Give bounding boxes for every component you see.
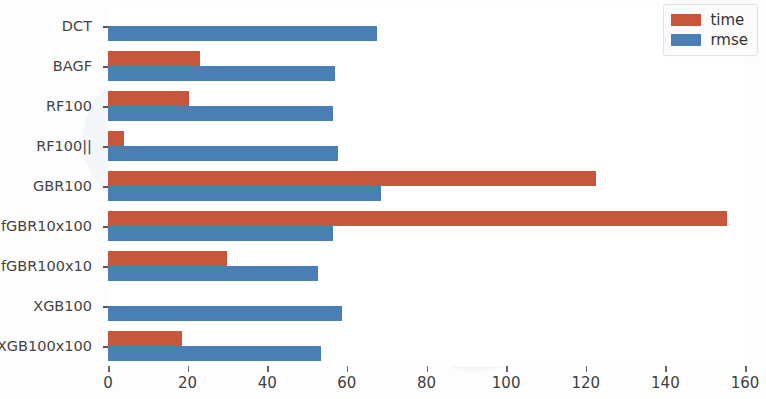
bar-group (108, 246, 745, 286)
x-tick-label: 0 (103, 374, 113, 392)
bar-time (108, 211, 727, 226)
x-tick-label: 40 (258, 374, 277, 392)
y-tick-mark (103, 146, 108, 148)
x-tick-label: 100 (492, 374, 521, 392)
bar-group (108, 166, 745, 206)
bar-time (108, 331, 182, 346)
y-tick-label: BAGF (53, 46, 92, 86)
bar-rmse (108, 106, 333, 121)
bar-group (108, 206, 745, 246)
bar-time (108, 131, 124, 146)
x-tick-mark (188, 366, 190, 372)
y-tick-label: fGBR100x10 (1, 246, 92, 286)
y-tick-label: DCT (62, 6, 92, 46)
y-tick-label: fGBR10x100 (1, 206, 92, 246)
y-tick-mark (103, 346, 108, 348)
y-tick-mark (103, 186, 108, 188)
x-tick-label: 80 (417, 374, 436, 392)
y-tick-mark (103, 306, 108, 308)
y-tick-label: RF100 (46, 86, 92, 126)
bar-rmse (108, 26, 377, 41)
bar-group (108, 126, 745, 166)
bar-rmse (108, 266, 318, 281)
bar-time (108, 171, 596, 186)
x-tick-label: 60 (337, 374, 356, 392)
x-axis: 020406080100120140160 (108, 366, 745, 399)
legend-label-time: time (710, 13, 744, 28)
y-tick-mark (103, 226, 108, 228)
bar-rmse (108, 346, 321, 361)
x-tick-mark (506, 366, 508, 372)
bar-group (108, 46, 745, 86)
bar-time (108, 91, 189, 106)
y-tick-label: GBR100 (33, 166, 92, 206)
bar-rmse (108, 226, 333, 241)
x-tick-mark (427, 366, 429, 372)
bar-group (108, 6, 745, 46)
bar-rmse (108, 306, 342, 321)
x-tick-label: 160 (731, 374, 760, 392)
plot-area (108, 6, 745, 366)
legend-item-rmse[interactable]: rmse (671, 30, 748, 50)
legend-swatch-rmse (671, 34, 701, 46)
y-tick-mark (103, 66, 108, 68)
bar-rmse (108, 186, 381, 201)
y-axis-labels: DCTBAGFRF100RF100||GBR100fGBR10x100fGBR1… (0, 6, 100, 366)
bar-group (108, 286, 745, 326)
x-tick-mark (347, 366, 349, 372)
x-tick-mark (745, 366, 747, 372)
y-tick-label: XGB100 (33, 286, 92, 326)
y-tick-label: XGB100x100 (0, 326, 92, 366)
y-tick-mark (103, 26, 108, 28)
x-tick-mark (665, 366, 667, 372)
legend-label-rmse: rmse (710, 33, 748, 48)
bar-group (108, 86, 745, 126)
bar-rmse (108, 146, 338, 161)
bar-rmse (108, 66, 335, 81)
x-tick-mark (586, 366, 588, 372)
legend-swatch-time (671, 14, 701, 26)
bar-chart: DCTBAGFRF100RF100||GBR100fGBR10x100fGBR1… (0, 0, 766, 399)
x-tick-label: 20 (178, 374, 197, 392)
bar-time (108, 51, 200, 66)
x-tick-mark (267, 366, 269, 372)
legend[interactable]: time rmse (663, 4, 758, 56)
bar-group (108, 326, 745, 366)
y-tick-label: RF100|| (36, 126, 92, 166)
x-tick-label: 140 (651, 374, 680, 392)
x-tick-mark (108, 366, 110, 372)
bar-time (108, 251, 227, 266)
y-tick-mark (103, 106, 108, 108)
legend-item-time[interactable]: time (671, 10, 748, 30)
x-tick-label: 120 (571, 374, 600, 392)
y-tick-mark (103, 266, 108, 268)
